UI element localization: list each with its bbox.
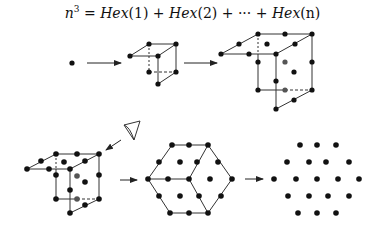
cube-3-viewed-points xyxy=(24,151,102,216)
cube-hex-diagram xyxy=(0,0,385,234)
eye-icon xyxy=(124,121,140,140)
single-point xyxy=(69,60,74,65)
centered-hexagonal-dots xyxy=(271,142,362,216)
cube-2 xyxy=(130,44,176,84)
arrow-icon xyxy=(106,140,121,150)
cube-3-points xyxy=(218,31,314,111)
cube-2-points xyxy=(127,41,178,86)
